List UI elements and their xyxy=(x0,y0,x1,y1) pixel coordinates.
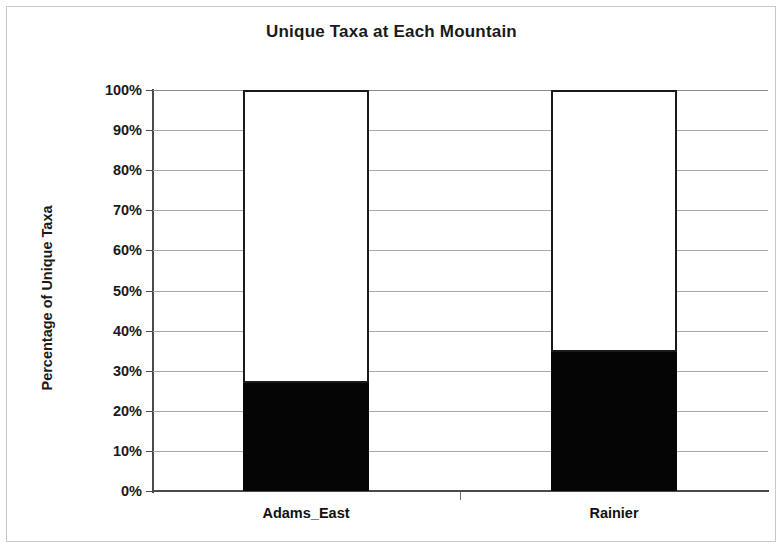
y-axis-tick-labels: 100%90%80%70%60%50%40%30%20%10%0% xyxy=(0,0,142,549)
y-axis-tick-label: 90% xyxy=(113,122,142,138)
bar-column xyxy=(551,90,677,491)
x-axis-category-label: Adams_East xyxy=(262,505,349,521)
bar-column xyxy=(243,90,369,491)
y-axis-tick-label: 10% xyxy=(113,443,142,459)
y-axis-tick-label: 80% xyxy=(113,162,142,178)
y-axis-tick xyxy=(146,291,153,292)
y-axis-tick xyxy=(146,331,153,332)
bar-segment-remainder xyxy=(243,90,369,383)
y-axis-tick-label: 20% xyxy=(113,403,142,419)
y-axis-tick-label: 70% xyxy=(113,202,142,218)
y-axis-tick-label: 50% xyxy=(113,283,142,299)
bar-segment-remainder xyxy=(551,90,677,352)
y-axis-tick-label: 100% xyxy=(105,82,142,98)
y-axis-tick xyxy=(146,411,153,412)
y-axis-tick xyxy=(146,130,153,131)
bar-segment-unique-taxa xyxy=(551,352,677,491)
y-axis-tick xyxy=(146,90,153,91)
y-axis-tick-label: 0% xyxy=(121,483,142,499)
bar-segment-unique-taxa xyxy=(243,383,369,491)
y-axis-tick-label: 30% xyxy=(113,363,142,379)
y-axis-tick xyxy=(146,170,153,171)
chart-page: Unique Taxa at Each Mountain Percentage … xyxy=(0,0,783,549)
y-axis-tick xyxy=(146,210,153,211)
y-axis-tick xyxy=(146,371,153,372)
y-axis-tick xyxy=(146,451,153,452)
y-axis-tick xyxy=(146,250,153,251)
x-axis-category-tick xyxy=(460,492,461,500)
x-axis-category-label: Rainier xyxy=(589,505,638,521)
y-axis-tick-label: 40% xyxy=(113,323,142,339)
y-axis-tick-label: 60% xyxy=(113,242,142,258)
plot-area xyxy=(152,90,768,491)
y-axis-tick xyxy=(146,491,153,492)
